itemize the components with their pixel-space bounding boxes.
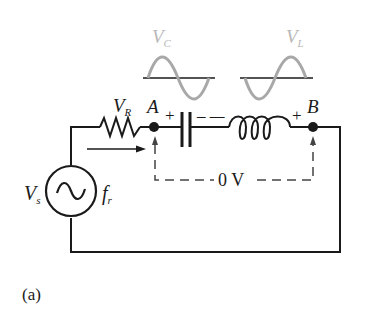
measurement-arrow-a-icon [152,136,158,145]
node-b: B [307,96,319,132]
node-b-label: B [307,96,319,117]
measurement-dashed-left [155,145,214,180]
wire-inductor-to-return [71,127,340,252]
sine-wave-icon [57,183,85,199]
inductor-voltage-waveform: VL [240,26,313,99]
figure-caption: (a) [22,285,41,304]
capacitor-plus-sign: + [165,106,175,125]
measurement-arrow-b-icon [310,136,316,145]
current-direction-arrow [87,146,146,153]
capacitor-waveform-label: VC [152,26,172,49]
circuit-wires [71,127,340,252]
source-voltage-label: Vs [24,182,41,206]
node-a-label: A [145,96,159,117]
measurement-dashed-right [257,145,313,180]
node-b-dot-icon [308,122,318,132]
series-rlc-circuit-diagram: VC VL VR + – – – + A [0,0,369,312]
resistor-voltage-label: VR [113,95,132,118]
inductor-coil-icon [229,117,290,140]
inductor-plus-sign: + [292,106,302,125]
inductor: – + [215,106,302,139]
measurement-value-label: 0 V [218,170,244,190]
resistor-zigzag-icon [100,118,140,136]
resistor: VR [100,95,140,136]
inductor-minus-sign: – [215,106,225,125]
source-frequency-label: fr [102,182,113,206]
wire-left-top [71,127,100,165]
inductor-waveform-label: VL [286,26,304,49]
node-a-dot-icon [149,122,159,132]
capacitor-voltage-waveform: VC [143,26,215,99]
ac-voltage-source: Vs fr [24,166,113,216]
current-arrow-head-icon [136,146,146,153]
voltage-measurement-ab: 0 V [152,136,316,190]
